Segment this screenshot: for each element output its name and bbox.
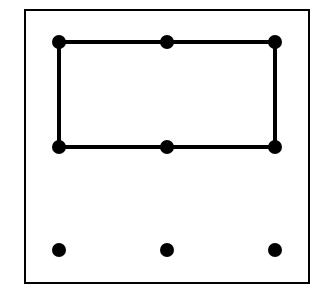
dot-diagram xyxy=(0,0,328,289)
dot-top-center xyxy=(160,35,174,49)
dot-top-left xyxy=(52,35,66,49)
dot-middle-right xyxy=(268,140,282,154)
dot-bottom-right xyxy=(268,243,282,257)
dot-middle-center xyxy=(160,140,174,154)
dot-middle-left xyxy=(52,140,66,154)
connecting-rectangle xyxy=(59,42,275,147)
dot-bottom-center xyxy=(160,243,174,257)
dot-bottom-left xyxy=(52,243,66,257)
dot-top-right xyxy=(268,35,282,49)
